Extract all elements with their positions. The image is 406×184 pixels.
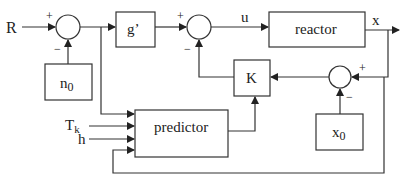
predictor-to-k-arrow [228,97,255,131]
summing-junction-1: + − [46,9,80,56]
n0-block: n0 [45,40,92,100]
sum2-plus-sign: + [177,9,184,23]
summing-junction-2: + − [177,9,211,56]
sum1-minus-sign: − [54,42,61,56]
sum2-circle [187,15,211,39]
predictor-label: predictor [154,119,208,135]
output-x-label: x [372,12,380,28]
h-input: h [78,131,134,147]
u-signal-label: u [241,9,249,25]
predictor-block: predictor [135,110,228,157]
reactor-block: reactor [269,12,365,47]
sum3-plus-sign: + [359,61,366,75]
sum3-circle [329,66,351,88]
x0-block: x0 [316,89,363,150]
sum3-minus-sign: − [346,90,353,104]
h-label: h [78,131,86,147]
summing-junction-3: + − [329,61,366,104]
reference-label: R [6,19,17,36]
sum2-minus-sign: − [184,42,191,56]
k-block: K [234,60,270,96]
k-to-sum2-arrow [199,40,234,77]
sum1-circle [56,15,80,39]
tk-input: Tk [65,117,134,135]
sum1-plus-sign: + [46,9,53,23]
k-label: K [246,70,257,86]
block-diagram: R + − n0 g’ + − u reactor x [0,0,406,184]
g-prime-block: g’ [116,12,155,47]
reactor-label: reactor [295,21,337,37]
g-prime-label: g’ [127,21,140,37]
